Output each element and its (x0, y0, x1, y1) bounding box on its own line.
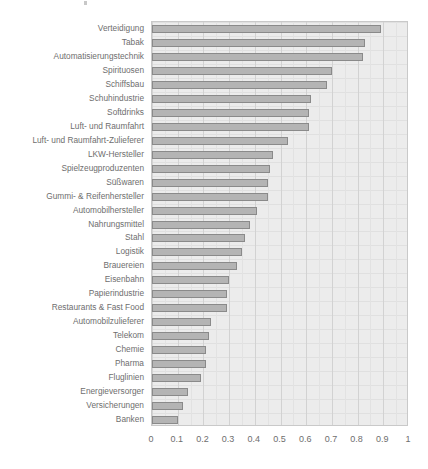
x-axis-tick-label: 0.2 (196, 432, 209, 446)
bar (152, 276, 229, 284)
y-axis-tick-label: Logistik (116, 245, 144, 257)
y-axis-tick-label: LKW-Hersteller (88, 148, 144, 160)
y-axis-tick-label: Papierindustrie (89, 287, 144, 299)
y-axis-tick-label: Gummi- & Reifenhersteller (46, 190, 144, 202)
y-axis-tick-label: Chemie (115, 343, 144, 355)
y-axis-tick-label: Automobilhersteller (73, 204, 144, 216)
x-axis-tick-label: 0.9 (376, 432, 389, 446)
y-axis-tick-label: Automatisierungstechnik (54, 50, 144, 62)
y-axis-tick-label: Verteidigung (98, 22, 144, 34)
x-axis-tick-label: 0 (148, 432, 153, 446)
y-axis-tick-label: Schuhindustrie (89, 92, 144, 104)
bar (152, 248, 242, 256)
bar (152, 360, 206, 368)
y-axis-tick-label: Telekom (113, 329, 144, 341)
bar (152, 109, 309, 117)
bar (152, 179, 268, 187)
bar (152, 39, 365, 47)
x-axis-tick-label: 0.1 (170, 432, 183, 446)
y-axis-tick-label: Restaurants & Fast Food (52, 301, 144, 313)
y-axis-tick-label: Softdrinks (107, 106, 144, 118)
bar (152, 207, 257, 215)
y-axis-tick-label: Banken (116, 413, 144, 425)
bar (152, 346, 206, 354)
y-axis-tick-label: Automobilzulieferer (73, 315, 144, 327)
x-axis-tick-label: 0.6 (299, 432, 312, 446)
y-axis-tick-label: Spielzeugproduzenten (61, 162, 144, 174)
bars-container (152, 22, 407, 425)
y-axis-tick-label: Brauereien (103, 259, 144, 271)
bar (152, 374, 201, 382)
bar (152, 388, 188, 396)
bar (152, 67, 332, 75)
bar (152, 25, 381, 33)
y-axis-tick-label: Eisenbahn (105, 273, 144, 285)
bar (152, 165, 270, 173)
bar (152, 290, 227, 298)
y-axis-tick-label: Schiffsbau (105, 78, 144, 90)
bar (152, 318, 211, 326)
x-axis-tick-label: 0.8 (350, 432, 363, 446)
y-axis-tick-label: Nahrungsmittel (88, 218, 144, 230)
bar (152, 151, 273, 159)
x-axis-tick-label: 0.3 (222, 432, 235, 446)
x-axis-tick-label: 1 (405, 432, 410, 446)
bar (152, 304, 227, 312)
image-artifact (84, 1, 87, 5)
bar (152, 123, 309, 131)
bar (152, 81, 327, 89)
bar (152, 137, 288, 145)
bar (152, 53, 363, 61)
y-axis-tick-label: Luft- und Raumfahrt (70, 120, 144, 132)
y-axis-tick-label: Fluglinien (108, 371, 144, 383)
bar (152, 95, 311, 103)
y-axis-tick-label: Pharma (115, 357, 144, 369)
y-axis-tick-label: Spirituosen (102, 64, 144, 76)
plot-area (151, 21, 408, 426)
y-axis-tick-label: Tabak (122, 36, 144, 48)
x-axis-tick-label: 0.7 (325, 432, 338, 446)
x-axis-tick-label: 0.5 (273, 432, 286, 446)
bar (152, 193, 268, 201)
bar (152, 416, 178, 424)
y-axis-tick-label: Energieversorger (80, 385, 144, 397)
bar (152, 332, 209, 340)
y-axis-tick-label: Süßwaren (106, 176, 144, 188)
bar (152, 402, 183, 410)
bar (152, 234, 245, 242)
y-axis-tick-label: Luft- und Raumfahrt-Zulieferer (32, 134, 144, 146)
y-axis-tick-label: Stahl (125, 231, 144, 243)
x-axis-tick-label: 0.4 (248, 432, 261, 446)
bar-chart: VerteidigungTabakAutomatisierungstechnik… (0, 0, 428, 469)
bar (152, 262, 237, 270)
y-axis-tick-label: Versicherungen (86, 399, 144, 411)
y-axis-labels: VerteidigungTabakAutomatisierungstechnik… (0, 21, 148, 426)
x-axis-labels: 00.10.20.30.40.50.60.70.80.91 (151, 432, 408, 448)
bar (152, 221, 250, 229)
